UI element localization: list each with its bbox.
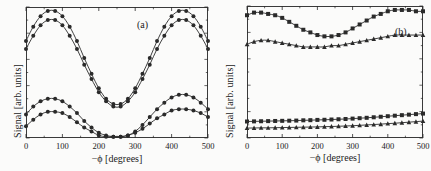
data-point-square — [337, 117, 341, 121]
data-point-square — [379, 115, 383, 119]
data-point-circle — [75, 120, 79, 124]
data-point-circle — [119, 105, 123, 109]
data-point-circle — [104, 135, 108, 139]
figure-root: Signal [arb. units] (a) 0100200300400500… — [0, 0, 431, 171]
data-point-circle — [24, 112, 28, 116]
data-point-circle — [75, 47, 79, 51]
data-point-circle — [24, 124, 28, 128]
data-point-square — [344, 30, 348, 34]
data-point-circle — [46, 110, 50, 114]
data-point-circle — [53, 9, 57, 13]
data-point-circle — [46, 9, 50, 13]
data-point-circle — [133, 90, 137, 94]
axis-ticks — [26, 7, 208, 138]
data-point-circle — [191, 23, 195, 27]
data-point-square — [344, 117, 348, 121]
data-point-square — [308, 118, 312, 122]
series-upper-curve-1 — [24, 9, 210, 106]
data-point-circle — [68, 25, 72, 29]
data-point-circle — [24, 47, 28, 51]
data-point-square — [245, 120, 249, 124]
panel-a-plot-area — [0, 0, 215, 171]
data-point-square — [252, 11, 256, 15]
data-point-square — [393, 114, 397, 118]
data-point-circle — [170, 108, 174, 112]
data-point-circle — [60, 111, 64, 115]
data-point-square — [280, 16, 284, 20]
data-point-circle — [206, 47, 210, 51]
data-point-circle — [75, 111, 79, 115]
data-point-circle — [82, 126, 86, 130]
series-upper-curve-2 — [24, 18, 210, 108]
data-point-circle — [60, 99, 64, 103]
panel-b: Signal [arb. units] (b) 0100200300400500… — [215, 0, 431, 171]
panel-a-label: (a) — [137, 19, 148, 30]
data-point-square — [329, 118, 333, 122]
data-point-square — [266, 119, 270, 123]
data-point-circle — [82, 56, 86, 60]
data-point-square — [358, 116, 362, 120]
data-point-circle — [97, 90, 101, 94]
data-point-square — [259, 11, 263, 15]
data-point-square — [386, 114, 390, 118]
data-point-square — [351, 26, 355, 30]
data-point-circle — [140, 77, 144, 81]
data-point-square — [287, 119, 291, 123]
data-point-circle — [206, 39, 210, 43]
data-point-circle — [97, 133, 101, 137]
data-point-circle — [155, 47, 159, 51]
data-point-circle — [31, 34, 35, 38]
data-point-circle — [31, 118, 35, 122]
data-point-square — [252, 119, 256, 123]
data-point-circle — [60, 14, 64, 18]
x-tick-label: 300 — [129, 141, 142, 151]
data-point-square — [245, 13, 249, 17]
data-point-circle — [104, 99, 108, 103]
data-point-square — [294, 119, 298, 123]
series-bottom-curve-squares — [245, 112, 425, 124]
data-point-square — [372, 15, 376, 19]
series-line — [26, 94, 208, 136]
data-point-circle — [90, 126, 94, 130]
data-point-circle — [31, 25, 35, 29]
data-point-circle — [199, 25, 203, 29]
data-point-circle — [119, 135, 123, 139]
data-point-circle — [60, 23, 64, 27]
data-point-square — [372, 115, 376, 119]
data-point-circle — [68, 34, 72, 38]
data-point-circle — [68, 105, 72, 109]
data-point-square — [322, 118, 326, 122]
data-point-circle — [111, 135, 115, 139]
data-point-circle — [170, 23, 174, 27]
data-point-circle — [199, 101, 203, 105]
data-point-square — [393, 8, 397, 12]
data-point-square — [365, 116, 369, 120]
data-point-circle — [39, 99, 43, 103]
panel-b-x-axis-label: −ϕ [degrees] — [247, 152, 423, 163]
x-tick-label: 0 — [24, 141, 28, 151]
data-point-square — [365, 19, 369, 23]
data-point-circle — [177, 18, 181, 22]
data-point-square — [329, 34, 333, 38]
series-bottom-curve-triangles — [245, 119, 426, 130]
data-point-circle — [111, 105, 115, 109]
data-point-circle — [126, 133, 130, 137]
data-point-circle — [90, 77, 94, 81]
data-point-circle — [31, 105, 35, 109]
panel-a: Signal [arb. units] (a) 0100200300400500… — [0, 0, 215, 171]
data-point-circle — [191, 95, 195, 99]
data-point-circle — [140, 123, 144, 127]
data-point-circle — [191, 14, 195, 18]
panel-a-x-axis-label: −ϕ [degrees] — [26, 153, 208, 164]
data-point-square — [386, 9, 390, 13]
data-point-square — [301, 118, 305, 122]
data-point-circle — [39, 112, 43, 116]
data-point-square — [273, 119, 277, 123]
data-point-circle — [191, 108, 195, 112]
data-point-circle — [155, 116, 159, 120]
series-lower-curve-1 — [24, 93, 210, 139]
data-point-circle — [184, 93, 188, 97]
x-tick-label: 300 — [346, 141, 359, 151]
data-point-square — [414, 9, 418, 13]
data-point-circle — [90, 129, 94, 133]
